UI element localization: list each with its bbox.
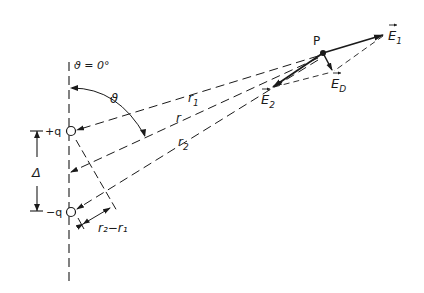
dipole-diagram: ϑ = 0° ϑ +q −q Δ r1 r r2 r₂−r₁ P E1 E2 E…	[0, 0, 424, 293]
r2-line	[77, 60, 318, 209]
axis-label: ϑ = 0°	[74, 59, 110, 72]
r2-label: r2	[178, 135, 189, 152]
path-difference-label: r₂−r₁	[98, 221, 128, 235]
negative-charge	[67, 208, 76, 217]
negative-charge-label: −q	[46, 206, 62, 219]
r-line	[71, 58, 318, 172]
point-p	[320, 50, 326, 56]
e1-label: E1	[388, 23, 402, 46]
angle-arc	[72, 88, 145, 136]
positive-charge-label: +q	[45, 125, 61, 138]
e1-vector	[323, 35, 383, 53]
svg-text:E1: E1	[388, 28, 402, 46]
separation-label: Δ	[31, 165, 41, 180]
angle-label: ϑ	[110, 91, 118, 106]
svg-text:ED: ED	[331, 76, 346, 94]
point-p-label: P	[313, 34, 320, 48]
ed-label: ED	[331, 71, 346, 94]
perpendicular-line	[76, 140, 117, 211]
positive-charge	[67, 127, 76, 136]
r-label: r	[176, 111, 182, 125]
parallelogram-side-1	[334, 36, 383, 71]
e2-vector	[273, 53, 323, 87]
svg-text:E2: E2	[261, 92, 275, 110]
